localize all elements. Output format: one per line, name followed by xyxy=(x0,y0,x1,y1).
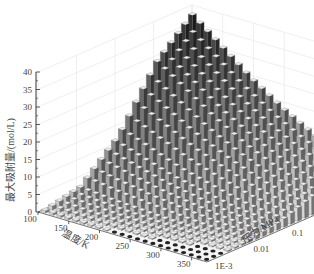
z-tick-label: 20 xyxy=(23,137,33,147)
bar3d-chart: 05101520253035401001502002503003501E-30.… xyxy=(0,0,314,274)
z-tick-label: 30 xyxy=(23,102,33,112)
z-tick-label: 15 xyxy=(23,155,33,165)
chart-canvas: 05101520253035401001502002503003501E-30.… xyxy=(0,0,314,274)
x-tick-label: 350 xyxy=(177,259,191,269)
z-tick-label: 5 xyxy=(28,190,33,200)
x-tick-label: 250 xyxy=(115,241,129,251)
z-tick-label: 10 xyxy=(23,172,33,182)
x-tick-label: 300 xyxy=(146,250,160,260)
y-tick-label: 0.1 xyxy=(292,228,303,238)
z-tick-label: 40 xyxy=(23,67,33,77)
y-tick-label: 1E-3 xyxy=(215,261,233,271)
x-tick-label: 100 xyxy=(23,214,37,224)
x-axis-label: 温度/K xyxy=(60,226,93,251)
z-tick-label: 25 xyxy=(23,120,33,130)
z-axis-label: 最大吸附量/(mol/L) xyxy=(4,118,17,202)
z-tick-label: 35 xyxy=(23,85,33,95)
y-tick-label: 0.01 xyxy=(254,244,270,254)
